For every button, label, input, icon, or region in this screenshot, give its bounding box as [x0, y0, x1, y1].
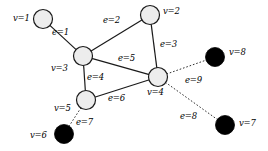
edge-label-e9: e=9	[185, 76, 202, 85]
edge-label-e4: e=4	[87, 73, 104, 82]
graph-canvas	[0, 0, 268, 151]
graph-node-v7	[216, 116, 235, 135]
graph-edge-e4	[84, 65, 86, 91]
node-label-v6: v=6	[30, 131, 47, 140]
node-label-v1: v=1	[13, 14, 30, 23]
edge-label-e6: e=6	[108, 94, 125, 103]
graph-node-v5	[77, 91, 96, 110]
edge-label-e1: e=1	[52, 28, 69, 37]
graph-node-v3	[74, 47, 93, 66]
graph-node-v2	[141, 6, 160, 25]
node-label-v3: v=3	[51, 64, 68, 73]
node-label-v4: v=4	[147, 88, 164, 97]
graph-node-v8	[206, 48, 225, 67]
node-label-v7: v=7	[239, 119, 256, 128]
node-label-v2: v=2	[163, 7, 180, 16]
graph-edge-e9	[166, 60, 206, 74]
edge-label-e7: e=7	[76, 118, 93, 127]
edge-label-e5: e=5	[118, 54, 135, 63]
graph-node-v4	[149, 68, 168, 87]
node-label-v5: v=5	[54, 104, 71, 113]
graph-figure: v=1v=2v=3v=4v=5v=6v=7v=8e=1e=2e=3e=4e=5e…	[0, 0, 268, 151]
edge-label-e8: e=8	[180, 112, 197, 121]
edge-label-e3: e=3	[160, 40, 177, 49]
graph-node-v1	[34, 10, 53, 29]
node-label-v8: v=8	[229, 48, 246, 57]
edge-label-e2: e=2	[103, 16, 120, 25]
graph-edge-e3	[151, 24, 157, 68]
graph-node-v6	[55, 125, 74, 144]
